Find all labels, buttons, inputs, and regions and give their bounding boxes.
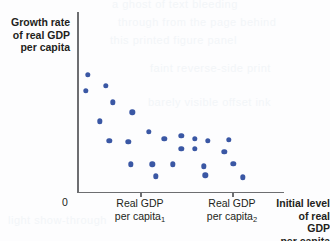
ghost-text-line: barely visible offset ink <box>148 96 271 108</box>
x-axis-title: Initial level of real GDP per capita <box>276 197 330 241</box>
scatter-point <box>170 162 175 167</box>
ghost-text-line: through from the page behind <box>118 16 276 28</box>
x-axis-title-line-2: of real GDP <box>276 210 330 235</box>
x-axis-title-line-3: per capita <box>276 235 330 241</box>
x-axis-tick-label-1-line-1: Real GDP <box>95 197 185 210</box>
origin-label: 0 <box>62 196 68 208</box>
ghost-text-line: light show-through <box>8 214 107 226</box>
scatter-point <box>130 110 135 115</box>
scatter-point <box>149 162 154 167</box>
ghost-text-line: faint reverse-side print <box>150 62 271 74</box>
y-axis-line <box>77 12 79 193</box>
scatter-point <box>192 146 197 151</box>
scatter-point <box>231 161 236 166</box>
x-axis-line <box>77 192 284 194</box>
ghost-text-line: a ghost of text bleeding <box>112 0 238 10</box>
x-axis-tick-label-1: Real GDP per capita1 <box>95 197 185 224</box>
x-axis-tick-label-2-text: per capita <box>207 210 253 222</box>
scatter-point <box>153 174 158 179</box>
scatter-point <box>125 139 130 144</box>
scatter-point <box>83 88 88 93</box>
scatter-point <box>85 72 90 77</box>
scatter-point <box>203 173 208 178</box>
x-axis-tick-label-1-subscript: 1 <box>161 215 165 224</box>
x-axis-tick-label-2-line-1: Real GDP <box>187 197 277 210</box>
y-axis-title-line-2: of real GDP <box>0 29 70 42</box>
scatter-point <box>110 100 115 105</box>
y-axis-title: Growth rate of real GDP per capita <box>0 16 70 54</box>
x-axis-title-line-1: Initial level <box>276 197 330 210</box>
ghost-text-line: this printed figure panel <box>110 34 237 46</box>
x-axis-tick-label-1-text: per capita <box>115 210 161 222</box>
x-axis-tick-label-2: Real GDP per capita2 <box>187 197 277 224</box>
scatter-point <box>146 129 151 134</box>
scatter-point <box>103 83 108 88</box>
x-axis-tick-label-2-line-2: per capita2 <box>187 210 277 225</box>
scatter-point <box>128 162 133 167</box>
y-axis-title-line-3: per capita <box>0 41 70 54</box>
scatter-point <box>178 133 183 138</box>
scatter-point <box>178 146 183 151</box>
y-axis-title-line-1: Growth rate <box>0 16 70 29</box>
scatter-point <box>107 138 112 143</box>
scatter-point <box>226 137 231 142</box>
scatter-point <box>222 149 227 154</box>
scatter-point <box>205 138 210 143</box>
scatter-point <box>192 136 197 141</box>
x-axis-tick-label-1-line-2: per capita1 <box>95 210 185 225</box>
x-axis-tick-label-2-subscript: 2 <box>253 215 257 224</box>
scatter-point <box>97 118 102 123</box>
scatter-point <box>201 164 206 169</box>
growth-convergence-scatter-figure: a ghost of text bleeding through from th… <box>0 0 330 241</box>
scatter-point <box>240 175 245 180</box>
scatter-point <box>162 136 167 141</box>
